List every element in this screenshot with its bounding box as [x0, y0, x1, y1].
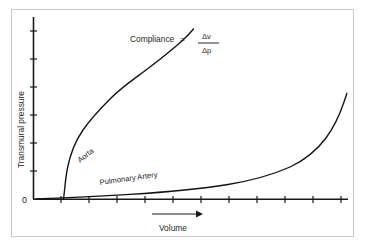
arrow-head	[196, 211, 203, 218]
curve-pulmonary-artery	[36, 94, 347, 199]
equation-left-term: Compliance	[130, 34, 175, 44]
equation-denominator: Δp	[202, 46, 211, 55]
compliance-equation: Compliance = Δv Δp	[130, 32, 219, 55]
volume-direction-arrow	[152, 211, 203, 218]
curve-label-aorta: Aorta	[76, 146, 96, 165]
y-axis-label-group: Transmural pressure	[16, 91, 26, 168]
equation-equals-sign: =	[180, 34, 185, 44]
figure-container: Aorta Pulmonary Artery 0 Transmural pres…	[0, 0, 365, 247]
origin-label: 0	[22, 195, 27, 205]
axes-group	[33, 17, 348, 199]
curve-label-aorta-group: Aorta	[76, 146, 96, 165]
chart-canvas: Aorta Pulmonary Artery 0 Transmural pres…	[0, 0, 365, 247]
curve-label-pulmonary-artery: Pulmonary Artery	[99, 170, 158, 187]
x-axis-label: Volume	[159, 223, 187, 233]
curve-label-pulmonary-group: Pulmonary Artery	[99, 170, 158, 187]
equation-numerator: Δv	[202, 32, 211, 41]
y-axis-label: Transmural pressure	[16, 91, 26, 168]
